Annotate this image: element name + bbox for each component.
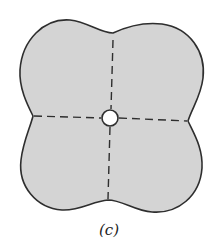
lobed-plate-diagram (0, 0, 218, 252)
figure: (c) (0, 0, 218, 252)
center-hole (102, 110, 118, 126)
figure-caption: (c) (0, 220, 218, 240)
